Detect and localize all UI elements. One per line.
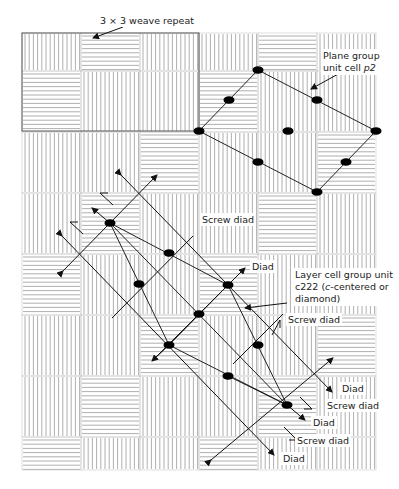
weave-cell	[199, 437, 258, 470]
label-layer-cell-line2: c222 (c-centered or	[295, 281, 393, 293]
weave-cell	[81, 132, 140, 193]
weave-cell	[140, 71, 199, 132]
diad-point	[194, 310, 205, 318]
weave-cell	[140, 33, 199, 71]
weave-cell	[81, 254, 140, 315]
weave-cell	[81, 376, 140, 437]
diad-point	[105, 219, 116, 227]
diad-point	[223, 372, 234, 380]
label-layer-cell-line3: diamond)	[295, 293, 393, 305]
label-plane-group-line2: unit cell p2	[323, 62, 380, 74]
label-diad-3: Diad	[311, 416, 337, 429]
weave-cell	[22, 376, 81, 437]
diad-point	[253, 158, 264, 166]
weave-cell	[81, 437, 140, 470]
screw-diad-mark	[300, 397, 312, 409]
label-pointer	[245, 303, 287, 308]
diad-point	[134, 280, 145, 288]
weave-cell	[81, 33, 140, 71]
weave-cell	[22, 71, 81, 132]
diad-point	[194, 127, 205, 135]
label-weave-repeat: 3 × 3 weave repeat	[98, 14, 196, 27]
label-plane-group: Plane group unit cell p2	[321, 49, 382, 75]
weave-cell	[258, 193, 317, 254]
label-text: -centered or	[330, 281, 388, 292]
label-text: c222 (	[295, 281, 325, 292]
diad-point	[253, 341, 264, 349]
diad-point	[164, 249, 175, 257]
diad-point	[341, 158, 352, 166]
diad-point	[253, 66, 264, 74]
label-screw-diad-4: Screw diad	[295, 434, 351, 447]
diad-point	[312, 188, 323, 196]
weave-cell	[258, 33, 317, 71]
screw-diad-mark	[100, 193, 113, 205]
weave-cell	[81, 71, 140, 132]
weave-cell	[140, 193, 199, 254]
diad-point	[164, 341, 175, 349]
weave-cell	[199, 132, 258, 193]
weave-cell	[22, 33, 81, 71]
weave-cell	[22, 315, 81, 376]
diad-point	[283, 127, 294, 135]
label-symbol: p2	[364, 62, 376, 73]
cell-edge	[228, 376, 287, 405]
diad-point	[224, 96, 235, 104]
weave-cell	[22, 254, 81, 315]
weave-cell	[258, 132, 317, 193]
c222-dots	[105, 219, 293, 409]
label-layer-cell-line1: Layer cell group unit	[295, 269, 393, 281]
weave-cell	[81, 315, 140, 376]
label-screw-diad-3: Screw diad	[325, 399, 381, 412]
c222-layer-cell	[62, 27, 340, 460]
diad-point	[223, 281, 234, 289]
label-screw-diad-1: Screw diad	[200, 213, 256, 226]
label-screw-diad-2: Screw diad	[286, 313, 342, 326]
weave-cell	[140, 376, 199, 437]
label-diad-1: Diad	[250, 260, 276, 273]
weave-symmetry-diagram: 3 × 3 weave repeat Plane group unit cell…	[0, 0, 399, 489]
weave-cell	[317, 193, 376, 254]
label-text: unit cell	[323, 62, 364, 73]
diad-point	[371, 127, 382, 135]
diad-point	[282, 401, 293, 409]
diad-point	[312, 96, 323, 104]
weave-cell	[258, 71, 317, 132]
weave-cell	[140, 437, 199, 470]
label-plane-group-line1: Plane group	[323, 50, 380, 62]
weave-cell	[22, 437, 81, 470]
label-diad-4: Diad	[281, 452, 307, 465]
label-layer-cell: Layer cell group unit c222 (c-centered o…	[293, 268, 395, 306]
weave-cell	[317, 71, 376, 132]
label-diad-2: Diad	[340, 382, 366, 395]
weave-cell	[22, 132, 81, 193]
weave-cell	[199, 33, 258, 71]
